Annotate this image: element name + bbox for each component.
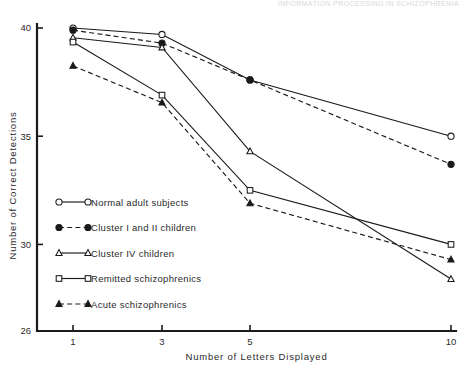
legend-entry-4[interactable]: Acute schizophrenics (56, 299, 187, 310)
data-point-1-2 (247, 77, 253, 83)
legend-label: Remitted schizophrenics (91, 273, 201, 284)
data-point-3-2 (247, 188, 253, 194)
x-axis-title: Number of Letters Displayed (186, 351, 328, 362)
data-point-legend-b-3 (85, 276, 91, 282)
series-line-1 (73, 30, 451, 164)
data-point-3-3 (448, 242, 454, 248)
data-point-4-0 (70, 62, 76, 68)
data-point-0-3 (448, 133, 454, 139)
legend-entry-1[interactable]: Cluster I and II children (56, 222, 196, 233)
data-point-0-1 (159, 31, 165, 37)
data-point-legend-a-0 (56, 199, 62, 205)
data-point-3-0 (70, 39, 76, 45)
data-point-3-1 (159, 92, 165, 98)
line-chart: 2630354013510Number of Letters Displayed… (0, 0, 465, 371)
legend-label: Normal adult subjects (91, 197, 189, 208)
y-tick-label: 40 (20, 22, 31, 33)
legend-entry-2[interactable]: Cluster IV children (56, 248, 174, 259)
x-tick-label: 1 (70, 336, 75, 347)
y-tick-label: 35 (20, 131, 31, 142)
series-line-3 (73, 42, 451, 244)
figure-container: INFORMATION PROCESSING IN SCHIZOPHRENIA … (0, 0, 465, 371)
legend-entry-3[interactable]: Remitted schizophrenics (56, 273, 201, 284)
running-head-text: INFORMATION PROCESSING IN SCHIZOPHRENIA (278, 0, 459, 7)
x-tick-label: 10 (446, 336, 457, 347)
legend-label: Cluster I and II children (91, 222, 196, 233)
data-point-1-0 (70, 27, 76, 33)
data-point-legend-a-3 (56, 276, 62, 282)
series-line-2 (73, 38, 451, 279)
data-point-4-2 (247, 200, 253, 206)
legend-entry-0[interactable]: Normal adult subjects (56, 197, 189, 208)
axis-lines (37, 24, 456, 331)
y-tick-label: 26 (20, 325, 31, 336)
y-axis-title: Number of Correct Detections (7, 111, 18, 259)
legend-label: Acute schizophrenics (91, 299, 187, 310)
x-tick-label: 3 (159, 336, 164, 347)
data-point-1-3 (448, 161, 454, 167)
data-point-legend-a-1 (56, 224, 62, 230)
legend-label: Cluster IV children (91, 248, 174, 259)
x-tick-label: 5 (247, 336, 252, 347)
data-point-2-3 (448, 276, 454, 282)
y-tick-label: 30 (20, 239, 31, 250)
